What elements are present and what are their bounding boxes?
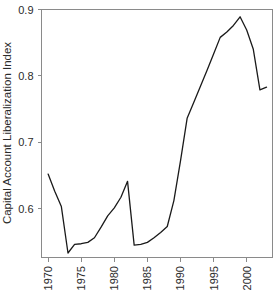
y-tick-label: 0.8	[18, 70, 33, 82]
line-chart: Capital Account Liberalization Index 0.6…	[0, 0, 279, 301]
x-tick-label: 1995	[208, 266, 220, 290]
data-series-line	[48, 17, 266, 253]
x-tick-label: 1975	[75, 266, 87, 290]
y-axis-label: Capital Account Liberalization Index	[1, 42, 13, 224]
y-tick-label: 0.7	[18, 136, 33, 148]
y-axis-tick-labels: 0.60.70.80.9	[18, 4, 33, 215]
x-axis-tick-labels: 1970197519801985199019952000	[42, 266, 253, 290]
x-tick-label: 1990	[174, 266, 186, 290]
chart-figure: Capital Account Liberalization Index 0.6…	[0, 0, 279, 301]
x-tick-label: 2000	[241, 266, 253, 290]
x-axis-tick-marks	[48, 257, 247, 262]
plot-frame	[42, 10, 273, 258]
x-tick-label: 1980	[108, 266, 120, 290]
y-tick-label: 0.6	[18, 203, 33, 215]
x-tick-label: 1985	[141, 266, 153, 290]
y-axis-tick-marks	[38, 10, 42, 209]
y-tick-label: 0.9	[18, 4, 33, 16]
x-tick-label: 1970	[42, 266, 54, 290]
